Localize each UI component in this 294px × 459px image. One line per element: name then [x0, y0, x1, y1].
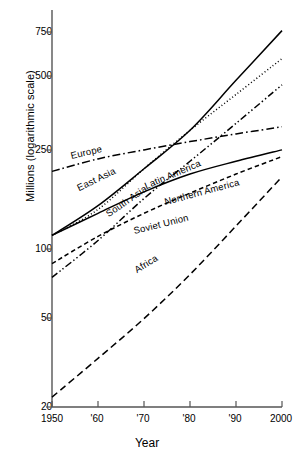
series-lines — [52, 31, 282, 398]
chart-root: Millions (logarithmic scale) 750 500 250… — [0, 0, 294, 459]
series-line-africa — [52, 177, 282, 397]
